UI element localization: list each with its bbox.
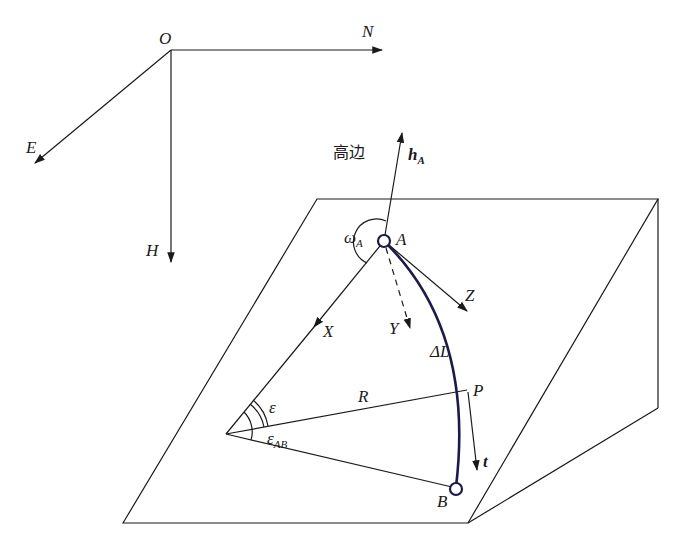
toolface-angle-label: ωA [344,228,363,249]
eps-label: ε [269,398,276,417]
eps-arc-outer [253,400,268,426]
high-side-vector [384,133,402,241]
radius-label: R [357,387,369,406]
eps-ab-label: εAB [267,429,287,450]
x-axis-extension [226,327,314,434]
y-axis-label: Y [389,319,400,338]
point-a-label: A [395,230,407,249]
high-side-label: 高边 [333,143,365,162]
tangent-vector [468,392,477,470]
north-label: N [361,22,375,41]
x-axis [314,241,384,327]
origin-label: O [159,29,171,48]
east-axis [35,50,171,163]
global-axes [35,50,382,262]
point-p-label: P [472,381,483,400]
eps-arc-inner [250,404,264,427]
radius-line-b [226,434,452,487]
eps-ab-arc [244,412,252,440]
vertical-label: H [145,241,160,260]
x-axis-label: X [322,322,334,341]
wedge-bottom-edge [468,408,658,523]
east-label: E [25,138,37,157]
high-side-vector-label: hA [408,145,425,166]
point-a-marker [378,235,390,247]
arc-length-label: ΔL [429,342,449,361]
point-b-marker [450,483,462,495]
diagram-canvas: O N E H 高边 hA ωA X Y Z R ε εAB ΔL t A P … [0,0,682,549]
point-b-label: B [437,492,448,511]
z-axis-label: Z [465,286,475,305]
radius-line-p [226,390,467,434]
tangent-label: t [483,452,489,471]
trajectory-arc [384,241,459,487]
